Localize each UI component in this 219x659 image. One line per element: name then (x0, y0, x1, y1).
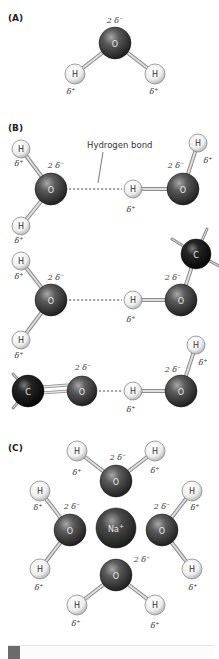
atom-label: H (193, 341, 199, 350)
atom-o: O (35, 284, 67, 316)
atom-label: H (74, 447, 80, 456)
partial-positive-charge: δ⁺ (149, 87, 158, 96)
atom-label: O (67, 527, 73, 536)
atom-h: H (12, 217, 30, 235)
partial-positive-charge: δ⁺ (14, 272, 23, 281)
atom-label: O (112, 40, 118, 49)
atom-h: H (182, 481, 202, 501)
atom-label: O (113, 572, 119, 581)
partial-negative-charge: 2 δ⁻ (167, 161, 185, 170)
partial-negative-charge: 2 δ⁻ (47, 273, 65, 282)
partial-positive-charge: δ⁺ (33, 503, 42, 512)
atom-label: C (25, 388, 31, 397)
atom-label: H (18, 222, 24, 231)
panel-label-a: (A) (8, 13, 23, 23)
atom-label: H (72, 70, 78, 79)
partial-negative-charge: 2 δ⁻ (164, 365, 182, 374)
atom-o: O (146, 514, 178, 546)
partial-positive-charge: δ⁺ (126, 405, 135, 414)
atom-label: H (37, 565, 43, 574)
atom-h: H (182, 559, 202, 579)
hydrogen-bond-annotation: Hydrogen bond (87, 140, 152, 183)
atom-label: O (79, 388, 85, 397)
atom-label: O (178, 388, 184, 397)
atom-label: H (18, 145, 24, 154)
atom-label: O (180, 186, 186, 195)
partial-positive-charge: δ⁺ (14, 236, 23, 245)
atom-label: O (113, 478, 119, 487)
partial-negative-charge: 2 δ⁻ (106, 16, 124, 25)
partial-positive-charge: δ⁺ (71, 619, 80, 628)
atom-c: C (12, 375, 44, 407)
atom-label: H (74, 601, 80, 610)
atom-h: H (30, 559, 50, 579)
atom-h: H (12, 331, 30, 349)
partial-negative-charge: 2 δ⁻ (47, 161, 65, 170)
partial-positive-charge: δ⁺ (198, 358, 207, 367)
atom-label: H (130, 296, 136, 305)
atom-label: H (130, 185, 136, 194)
partial-positive-charge: δ⁺ (66, 87, 75, 96)
atom-h: H (124, 180, 142, 198)
atom-label: H (189, 565, 195, 574)
atom-h: H (12, 252, 30, 270)
atom-label: C (193, 251, 199, 260)
atom-o: O (67, 376, 97, 406)
partial-positive-charge: δ⁺ (14, 159, 23, 168)
partial-positive-charge: δ⁺ (126, 205, 135, 214)
atom-h: H (145, 64, 165, 84)
atom-label: O (48, 186, 54, 195)
atom-o: O (35, 173, 67, 205)
atoms: OHHHOHHOHHOHHOCCOHOHHOHHONa+OHHHOHH (12, 27, 211, 615)
partial-positive-charge: δ⁺ (72, 468, 81, 477)
partial-positive-charge: δ⁺ (150, 621, 159, 630)
partial-negative-charge: 2 δ⁻ (74, 363, 92, 372)
annotation-leader-line (98, 152, 103, 183)
atom-label: H (18, 336, 24, 345)
partial-positive-charge: δ⁺ (14, 351, 23, 360)
atom-label: O (178, 297, 184, 306)
atom-label: H (152, 601, 158, 610)
partial-negative-charge: 2 δ⁻ (109, 453, 127, 462)
atom-label: H (37, 487, 43, 496)
bottom-caption-bar (8, 645, 214, 659)
partial-negative-charge: 2 δ⁻ (133, 555, 151, 564)
partial-negative-charge: 2 δ⁻ (153, 502, 171, 511)
atom-h: H (145, 595, 165, 615)
atom-o: O (165, 375, 197, 407)
atom-label: H (189, 487, 195, 496)
partial-negative-charge: 2 δ⁻ (63, 502, 81, 511)
atom-h: H (65, 64, 85, 84)
atom-o: O (100, 559, 132, 591)
partial-positive-charge: δ⁺ (34, 583, 43, 592)
partial-negative-charge: 2 δ⁻ (164, 273, 182, 282)
atom-h: H (12, 140, 30, 158)
atom-o: O (99, 27, 131, 59)
atom-label: H (130, 387, 136, 396)
atom-o: O (100, 465, 132, 497)
partial-positive-charge: δ⁺ (190, 503, 199, 512)
hydrogen-bonds (69, 189, 122, 391)
atom-h: H (67, 595, 87, 615)
partial-positive-charge: δ⁺ (126, 315, 135, 324)
partial-positive-charge: δ⁺ (188, 583, 197, 592)
partial-positive-charge: δ⁺ (203, 156, 212, 165)
atom-h: H (67, 441, 87, 461)
atom-label: H (18, 257, 24, 266)
atom-h: H (145, 441, 165, 461)
atom-h: H (124, 382, 142, 400)
atom-h: H (189, 134, 207, 152)
atom-h: H (187, 336, 205, 354)
atom-o: O (167, 173, 199, 205)
atom-label: H (195, 139, 201, 148)
atom-label: O (159, 527, 165, 536)
hydrogen-bond-label: Hydrogen bond (87, 140, 152, 150)
caption-marker-square (8, 646, 20, 659)
atom-o: O (165, 284, 197, 316)
panel-label-b: (B) (8, 123, 23, 133)
atom-label: H (152, 70, 158, 79)
atom-h: H (30, 481, 50, 501)
atom-na: Na+ (96, 508, 136, 548)
atom-label: O (48, 297, 54, 306)
